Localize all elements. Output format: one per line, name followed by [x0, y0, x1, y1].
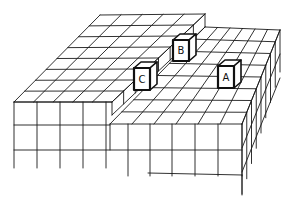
grid-line	[57, 58, 159, 59]
cube-a-label: A	[223, 72, 230, 83]
cube-c: C	[134, 62, 157, 90]
cube-c-label: C	[139, 74, 146, 85]
cube-a: A	[218, 60, 241, 88]
front-face-grid	[14, 102, 242, 195]
grid-line	[134, 100, 252, 101]
platform-drawing: C B A	[0, 0, 296, 204]
right-side-face-grid	[242, 30, 280, 194]
grid-line	[68, 47, 170, 48]
cube-b: B	[173, 34, 196, 61]
grid-line	[79, 36, 182, 37]
grid-line	[146, 88, 257, 89]
grid-platform-figure: C B A	[0, 0, 296, 204]
grid-line	[100, 14, 205, 15]
cube-b-label: B	[178, 45, 185, 56]
grid-line	[89, 25, 193, 26]
